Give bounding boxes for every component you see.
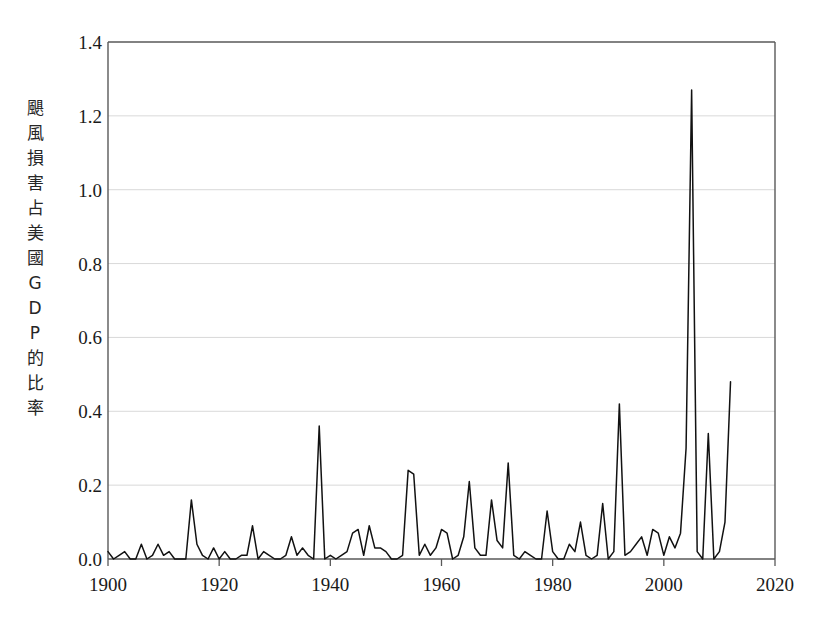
hurricane-damage-gdp-chart: 颶風損害占美國GDP的比率 0.00.20.40.60.81.01.21.4 1…	[0, 0, 819, 633]
axis-tick-marks	[108, 559, 775, 566]
data-series-line	[108, 90, 731, 559]
plot-area	[0, 0, 819, 633]
axis-lines	[108, 42, 775, 559]
gridlines	[108, 116, 775, 485]
